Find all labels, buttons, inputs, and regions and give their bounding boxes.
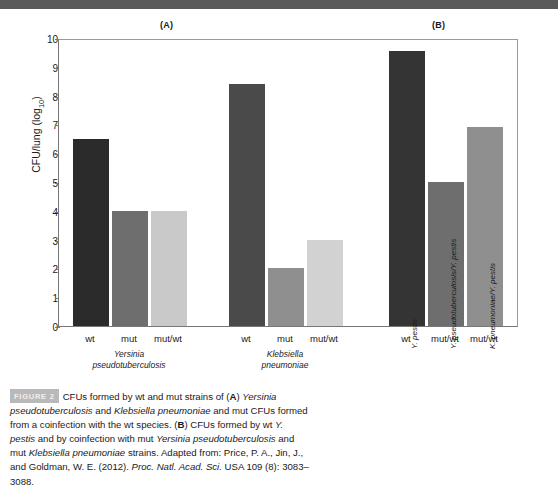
caption-text: FIGURE 2CFUs formed by wt and mut strain…	[10, 389, 310, 489]
x-tick-label: mut	[277, 333, 293, 344]
bar	[428, 182, 464, 326]
top-banner	[0, 0, 558, 9]
bar	[467, 127, 503, 326]
caption-italic-4: Yersinia pseudotuberculosis	[156, 433, 275, 444]
bar	[389, 51, 425, 326]
group-name-line1: Yersinia	[92, 349, 165, 360]
rotated-x-label: Y. pestis	[410, 319, 419, 349]
caption-italic-5: Klebsiella pneumoniae	[29, 447, 126, 458]
bar	[307, 240, 343, 326]
panel-b-letter: (B)	[432, 20, 445, 30]
bar	[73, 139, 109, 326]
caption-seg-5: ) CFUs formed by wt	[184, 419, 275, 430]
y-tick-mark	[55, 327, 60, 328]
panel-a-letter: (A)	[160, 20, 173, 30]
x-tick-label: mut	[121, 333, 137, 344]
x-tick-label: mut/wt	[154, 333, 182, 344]
caption-italic-2: Klebsiella pneumoniae	[114, 405, 211, 416]
caption-seg-6: and by coinfection with mut	[35, 433, 156, 444]
bar	[229, 84, 265, 326]
x-tick-label: wt	[241, 333, 251, 344]
rotated-x-label: K. pneumoniae/Y. pestis	[488, 263, 497, 349]
group-name-line2: pneumoniae	[262, 360, 309, 371]
y-axis-labels: 109876543210	[26, 39, 58, 327]
caption-seg-3: and	[93, 405, 114, 416]
rotated-x-label: Y. pseudotuberculosis/Y. pestis	[449, 239, 458, 349]
caption-seg-1: CFUs formed by wt and mut strains of (	[63, 391, 230, 402]
bar	[268, 268, 304, 326]
x-tick-label: wt	[85, 333, 95, 344]
caption-italic-6: Proc. Natl. Acad. Sci.	[132, 461, 222, 472]
bar	[112, 211, 148, 326]
figure-caption: FIGURE 2CFUs formed by wt and mut strain…	[0, 386, 558, 499]
figure-number-badge: FIGURE 2	[10, 389, 59, 403]
group-name-label: Yersiniapseudotuberculosis	[92, 349, 165, 370]
x-tick-label: mut/wt	[310, 333, 338, 344]
group-name-line2: pseudotuberculosis	[92, 360, 165, 371]
bar	[151, 211, 187, 326]
group-name-line1: Klebsiella	[262, 349, 309, 360]
group-name-label: Klebsiellapneumoniae	[262, 349, 309, 370]
figure-area: (A) (B) CFU/lung (log10) 109876543210 wt…	[0, 9, 558, 384]
